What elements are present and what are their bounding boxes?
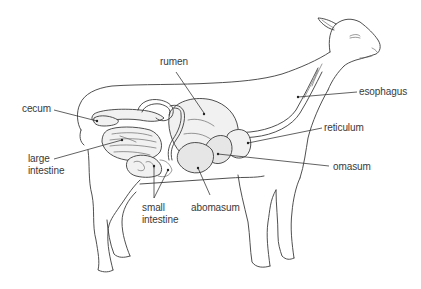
label-omasum: omasum (333, 161, 371, 173)
label-esophagus: esophagus (359, 86, 407, 98)
label-rumen: rumen (160, 56, 188, 68)
sheep-digestive-diagram (0, 0, 421, 289)
label-small-intestine-line1: small (142, 202, 165, 214)
abomasum-organ (177, 143, 213, 173)
label-small-intestine-line2: intestine (142, 214, 178, 226)
label-cecum: cecum (22, 103, 51, 115)
label-abomasum: abomasum (191, 202, 240, 214)
label-large-intestine-line1: large (28, 153, 50, 165)
label-reticulum: reticulum (324, 122, 364, 134)
label-large-intestine-line2: intestine (28, 165, 64, 177)
